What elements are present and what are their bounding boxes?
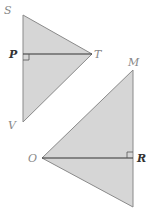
triangle-stv bbox=[23, 15, 92, 122]
label-r: R bbox=[136, 152, 146, 165]
label-t: T bbox=[94, 48, 103, 61]
label-m: M bbox=[127, 56, 140, 69]
label-o: O bbox=[28, 152, 37, 165]
triangle-diagram: S P T V M O R bbox=[0, 0, 154, 211]
label-p: P bbox=[8, 48, 18, 61]
label-s: S bbox=[4, 4, 12, 17]
triangle-mo bbox=[42, 70, 133, 207]
label-v: V bbox=[8, 119, 17, 132]
